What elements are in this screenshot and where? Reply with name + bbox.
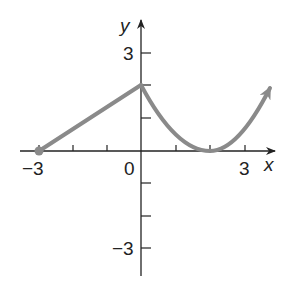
linear-segment [39, 85, 141, 151]
x-tick-label-neg3: −3 [22, 158, 44, 179]
y-tick-label-neg3: −3 [112, 238, 134, 259]
x-tick-label-0: 0 [124, 158, 135, 179]
graph: y x −3 0 3 3 −3 [0, 0, 300, 298]
closed-dot-marker [35, 147, 44, 156]
y-axis-label: y [118, 15, 131, 36]
x-axis-label: x [263, 154, 275, 175]
y-tick-label-3: 3 [123, 43, 134, 64]
x-tick-label-3: 3 [239, 158, 250, 179]
curve-segment [141, 85, 270, 151]
